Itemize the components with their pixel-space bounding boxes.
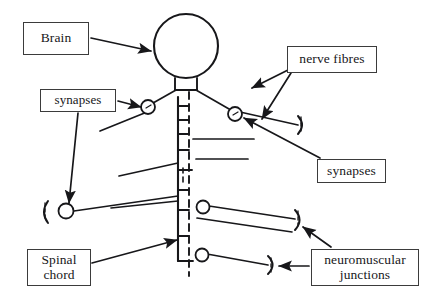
label-nerve-fibres-text: nerve fibres xyxy=(299,52,364,67)
label-spinal-chord-line1: Spinal xyxy=(41,253,76,268)
label-spinal-chord[interactable]: Spinal chord xyxy=(27,249,91,286)
neuromuscular-junction-2 xyxy=(44,201,48,223)
label-spinal-chord-line2: chord xyxy=(43,268,74,283)
synapse-node-5 xyxy=(196,249,209,262)
label-neuromuscular-junctions[interactable]: neuromuscular junctions xyxy=(311,249,419,286)
nerve-fibre-left-2 xyxy=(119,163,178,176)
label-synapses-right-text: synapses xyxy=(327,164,376,179)
nerve-fibre-left-4 xyxy=(74,196,178,211)
nerve-fibre-right-4 xyxy=(209,206,295,219)
label-brain-text: Brain xyxy=(41,31,72,46)
leader-nmj-upper xyxy=(303,227,331,247)
leader-synapses-left-to-lower-node xyxy=(69,113,78,203)
label-synapses-left-text: synapses xyxy=(54,93,101,107)
nerve-fibre-right-6 xyxy=(207,254,268,265)
nerve-fibre-right-5 xyxy=(197,218,292,232)
leader-synapses-left-to-node xyxy=(118,101,141,107)
synapse-node-4 xyxy=(197,201,210,214)
diagram-canvas: Brain synapses nerve fibres synapses Spi… xyxy=(0,0,434,300)
neck-segment xyxy=(175,78,197,90)
label-nerve-fibres[interactable]: nerve fibres xyxy=(287,46,377,73)
neuromuscular-junction-3 xyxy=(295,210,300,230)
label-brain[interactable]: Brain xyxy=(23,22,89,55)
leader-brain xyxy=(91,38,151,51)
spinal-cord-rungs xyxy=(178,106,193,261)
label-synapses-left[interactable]: synapses xyxy=(40,89,116,112)
leader-synapses-right xyxy=(244,118,320,158)
label-nmj-line1: neuromuscular xyxy=(324,253,406,268)
nerve-fibre-left-1 xyxy=(100,112,147,131)
label-nmj-line2: junctions xyxy=(340,268,390,283)
brain-circle xyxy=(154,14,218,78)
label-synapses-right[interactable]: synapses xyxy=(317,159,386,183)
synapse-node-3 xyxy=(59,204,74,219)
nerve-fibre-right-3 xyxy=(240,112,298,125)
synapse-nodes xyxy=(59,100,243,262)
leader-spinal-chord xyxy=(92,240,177,263)
